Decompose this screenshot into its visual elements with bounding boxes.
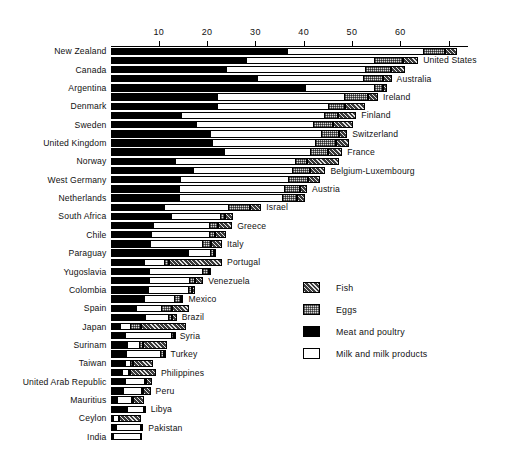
- bar-segment-fish: [119, 415, 141, 422]
- bar-segment-fish: [141, 424, 143, 431]
- bar-row: [111, 286, 195, 293]
- bar-row: [111, 130, 348, 137]
- category-label-colombia: Colombia: [69, 286, 107, 294]
- bar-row: [111, 424, 144, 431]
- bar-segment-fish: [445, 48, 457, 55]
- category-label-paraguay: Paraguay: [69, 249, 107, 257]
- bar-segment-fish: [338, 112, 356, 119]
- bar-segment-milk: [171, 213, 220, 220]
- category-label-peru: Peru: [156, 387, 175, 395]
- category-label-mauritius: Mauritius: [70, 396, 106, 404]
- bar-row: [111, 350, 166, 357]
- bar-segment-eggs: [284, 185, 299, 192]
- bar-segment-fish: [218, 222, 232, 229]
- bar-row: [111, 57, 419, 64]
- bar-segment-fish: [192, 286, 194, 293]
- category-label-netherlands: Netherlands: [59, 194, 107, 202]
- bar-row: [111, 158, 339, 165]
- bar-row: [111, 323, 187, 330]
- bar-segment-fish: [308, 176, 320, 183]
- axis-tick-label-60: 60: [395, 27, 406, 37]
- bar-row: [111, 66, 406, 73]
- bar-segment-milk: [175, 158, 295, 165]
- bar-segment-fish: [391, 66, 405, 73]
- bar-row: [111, 314, 177, 321]
- bar-segment-milk: [153, 222, 209, 229]
- bar-segment-fish: [339, 130, 347, 137]
- bar-row: [111, 295, 184, 302]
- bar-segment-milk: [150, 240, 202, 247]
- bar-segment-fish: [345, 103, 365, 110]
- category-label-norway: Norway: [76, 157, 106, 165]
- bar-segment-fish: [250, 204, 262, 211]
- bar-segment-fish: [336, 139, 349, 146]
- bar-segment-milk: [196, 121, 314, 128]
- axis-tick-70: [449, 41, 450, 46]
- bar-segment-meat: [111, 314, 145, 321]
- bar-segment-milk: [226, 66, 364, 73]
- category-label-italy: Italy: [227, 240, 244, 248]
- bar-segment-eggs: [344, 93, 368, 100]
- bar-row: [111, 387, 151, 394]
- bar-segment-meat: [111, 185, 180, 192]
- bar-segment-fish: [333, 121, 354, 128]
- bar-segment-milk: [149, 268, 202, 275]
- category-label-ceylon: Ceylon: [79, 414, 107, 422]
- bar-segment-meat: [111, 57, 246, 64]
- bar-segment-fish: [225, 213, 232, 220]
- legend-swatch-fish-icon: [303, 282, 320, 293]
- bar-segment-fish: [172, 305, 189, 312]
- bar-segment-meat: [111, 277, 150, 284]
- category-label-greece: Greece: [237, 222, 266, 230]
- bar-row: [111, 121, 354, 128]
- bar-segment-eggs: [365, 66, 391, 73]
- bar-segment-fish: [328, 148, 342, 155]
- bar-segment-milk: [145, 314, 168, 321]
- bar-row: [111, 406, 146, 413]
- bar-segment-fish: [214, 249, 216, 256]
- category-label-japan: Japan: [82, 323, 106, 331]
- bar-segment-meat: [111, 286, 149, 293]
- bar-segment-milk: [149, 277, 189, 284]
- bar-segment-eggs: [315, 139, 336, 146]
- bar-segment-eggs: [130, 323, 141, 330]
- bar-segment-milk: [181, 112, 323, 119]
- category-label-united-arab-republic: United Arab Republic: [23, 378, 107, 386]
- category-label-austria: Austria: [312, 185, 340, 193]
- bar-row: [111, 360, 154, 367]
- bar-segment-milk: [217, 103, 328, 110]
- bar-segment-milk: [193, 167, 292, 174]
- bar-segment-eggs: [363, 75, 383, 82]
- category-label-ireland: Ireland: [383, 93, 410, 101]
- bar-row: [111, 305, 190, 312]
- category-label-syria: Syria: [180, 332, 200, 340]
- bar-segment-fish: [133, 396, 144, 403]
- category-label-spain: Spain: [84, 304, 107, 312]
- axis-tick-60: [400, 41, 401, 46]
- bar-segment-milk: [125, 332, 170, 339]
- bar-row: [111, 415, 141, 422]
- bar-row: [111, 103, 366, 110]
- bar-segment-meat: [111, 75, 258, 82]
- bar-row: [111, 204, 262, 211]
- bar-segment-fish: [181, 295, 184, 302]
- bar-segment-fish: [164, 350, 166, 357]
- bar-row: [111, 48, 457, 55]
- legend-swatch-meat-icon: [303, 326, 320, 337]
- bar-row: [111, 277, 204, 284]
- bar-segment-milk: [117, 396, 131, 403]
- axis-tick-10: [159, 41, 160, 46]
- legend-label-milk: Milk and milk products: [336, 349, 427, 359]
- category-label-pakistan: Pakistan: [148, 424, 182, 432]
- bar-segment-fish: [140, 433, 142, 440]
- bar-segment-milk: [113, 433, 140, 440]
- bar-segment-meat: [111, 360, 125, 367]
- axis-tick-20: [207, 41, 208, 46]
- bar-segment-meat: [111, 148, 225, 155]
- category-label-mexico: Mexico: [188, 295, 216, 303]
- bar-segment-eggs: [324, 112, 338, 119]
- bar-segment-fish: [307, 158, 339, 165]
- bar-segment-meat: [111, 341, 127, 348]
- category-label-france: France: [347, 148, 375, 156]
- bar-segment-milk: [212, 139, 315, 146]
